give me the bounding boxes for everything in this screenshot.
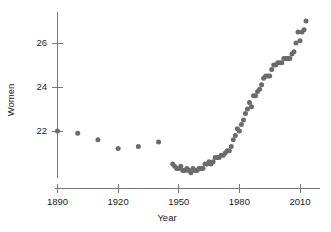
data-point	[233, 133, 238, 138]
data-point	[156, 140, 161, 145]
data-point	[269, 67, 274, 72]
x-axis-ticks: 18901920195019802010	[47, 184, 311, 207]
y-axis-title: Women	[5, 84, 16, 117]
data-point	[211, 159, 216, 164]
data-point	[304, 19, 309, 24]
x-tick-label: 1950	[168, 196, 189, 207]
data-point	[253, 93, 258, 98]
data-point	[243, 111, 248, 116]
y-axis-ticks: 222426	[36, 37, 63, 136]
data-point	[298, 38, 303, 43]
data-point	[229, 144, 234, 149]
data-point	[279, 60, 284, 65]
data-point	[302, 27, 307, 32]
data-point	[95, 137, 100, 142]
data-point	[55, 129, 60, 134]
scatter-plot-figure: 222426 18901920195019802010 Year Women	[0, 0, 331, 232]
data-point	[239, 122, 244, 127]
x-tick-label: 1920	[108, 196, 129, 207]
x-tick-label: 2010	[289, 196, 310, 207]
y-tick-label: 24	[36, 81, 47, 92]
data-point	[75, 131, 80, 136]
data-point	[201, 166, 206, 171]
data-point	[249, 104, 254, 109]
data-points-layer	[55, 19, 309, 176]
data-point	[241, 118, 246, 123]
data-point	[291, 49, 296, 54]
data-point	[116, 146, 121, 151]
data-point	[237, 129, 242, 134]
data-point	[227, 148, 232, 153]
data-point	[136, 144, 141, 149]
axes-group	[55, 12, 320, 189]
y-tick-label: 26	[36, 37, 47, 48]
chart-canvas: 222426 18901920195019802010 Year Women	[0, 0, 331, 232]
x-tick-label: 1890	[47, 196, 68, 207]
x-tick-label: 1980	[229, 196, 250, 207]
data-point	[259, 82, 264, 87]
x-axis-title: Year	[157, 212, 176, 223]
data-point	[247, 100, 252, 105]
data-point	[267, 74, 272, 79]
data-point	[231, 137, 236, 142]
data-point	[178, 164, 183, 169]
data-point	[257, 87, 262, 92]
data-point	[287, 56, 292, 61]
y-tick-label: 22	[36, 125, 47, 136]
